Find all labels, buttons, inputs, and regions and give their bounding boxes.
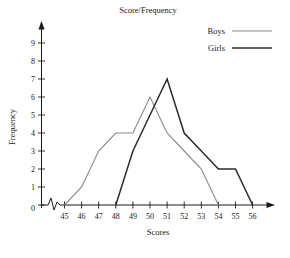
x-tick-label-49: 49 (129, 212, 137, 221)
series-line-girls (116, 79, 253, 205)
chart-legend: Boys Girls (208, 26, 272, 53)
y-tick-label-0: 0 (31, 204, 35, 213)
y-tick-label-2: 2 (31, 165, 35, 174)
x-tick-label-50: 50 (146, 212, 154, 221)
x-tick-label-55: 55 (232, 212, 240, 221)
chart-canvas: Score/Frequency 0 1 2 3 4 (0, 0, 290, 258)
x-tick-label-56: 56 (249, 212, 257, 221)
x-axis: 45 46 47 48 49 50 51 52 53 54 55 56 Scor… (42, 198, 276, 237)
y-tick-label-6: 6 (31, 93, 35, 102)
x-tick-label-46: 46 (78, 212, 86, 221)
x-tick-label-51: 51 (163, 212, 171, 221)
x-tick-label-45: 45 (61, 212, 69, 221)
y-tick-label-4: 4 (31, 129, 35, 138)
frequency-polygon-chart: Score/Frequency 0 1 2 3 4 (0, 0, 290, 258)
y-axis-arrowhead (38, 21, 44, 30)
x-axis-title: Scores (147, 227, 170, 237)
y-axis: 0 1 2 3 4 5 6 7 8 9 Frequency (7, 21, 45, 213)
y-tick-label-9: 9 (31, 39, 35, 48)
x-tick-label-54: 54 (214, 212, 222, 221)
x-tick-label-47: 47 (95, 212, 103, 221)
x-axis-arrowhead (267, 202, 276, 208)
x-axis-tick-labels: 45 46 47 48 49 50 51 52 53 54 55 56 (61, 212, 257, 221)
y-tick-label-1: 1 (31, 183, 35, 192)
legend-label-girls: Girls (208, 43, 225, 53)
legend-label-boys: Boys (208, 26, 225, 36)
x-tick-label-48: 48 (112, 212, 120, 221)
y-axis-title: Frequency (7, 108, 17, 145)
y-tick-label-5: 5 (31, 111, 35, 120)
y-tick-label-8: 8 (31, 57, 35, 66)
x-tick-label-52: 52 (180, 212, 188, 221)
y-tick-label-7: 7 (31, 75, 35, 84)
y-tick-label-3: 3 (31, 147, 35, 156)
chart-title: Score/Frequency (119, 5, 177, 15)
x-tick-label-53: 53 (197, 212, 205, 221)
series-lines (65, 79, 253, 205)
y-axis-tick-labels: 0 1 2 3 4 5 6 7 8 9 (31, 39, 35, 213)
x-axis-break-zigzag-icon (48, 198, 60, 210)
series-line-boys (65, 97, 219, 205)
